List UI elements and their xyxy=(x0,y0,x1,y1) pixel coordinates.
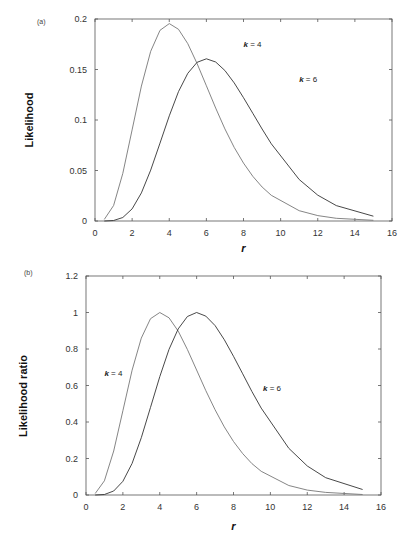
x-tick-label: 6 xyxy=(204,228,209,238)
y-tick-label: 0.05 xyxy=(69,166,87,176)
y-tick-label: 0.2 xyxy=(74,14,87,24)
x-tick-label: 0 xyxy=(83,502,88,512)
y-tick-label: 1.2 xyxy=(65,271,78,281)
panel-label: (b) xyxy=(24,269,33,277)
series-line-k4 xyxy=(104,24,373,221)
panel-b-likelihood-ratio: 024681012141600.20.40.60.811.2rLikelihoo… xyxy=(17,269,386,532)
y-axis-title: Likelihood xyxy=(23,93,35,148)
y-tick-label: 0.4 xyxy=(65,417,78,427)
y-tick-label: 0 xyxy=(82,216,87,226)
plot-frame xyxy=(86,276,381,495)
x-tick-label: 16 xyxy=(376,502,386,512)
x-tick-label: 14 xyxy=(339,502,349,512)
y-tick-label: 0 xyxy=(73,490,78,500)
x-tick-label: 0 xyxy=(92,228,97,238)
figure: 024681012141600.050.10.150.2rLikelihood(… xyxy=(0,0,410,546)
x-tick-label: 4 xyxy=(167,228,172,238)
x-tick-label: 16 xyxy=(387,228,397,238)
panel-label: (a) xyxy=(37,18,46,26)
x-tick-label: 14 xyxy=(350,228,360,238)
y-tick-label: 0.2 xyxy=(65,454,78,464)
x-tick-label: 4 xyxy=(157,502,162,512)
x-axis-title: r xyxy=(231,520,236,532)
y-tick-label: 0.6 xyxy=(65,381,78,391)
x-tick-label: 12 xyxy=(302,502,312,512)
x-tick-label: 8 xyxy=(241,228,246,238)
curve-annotation: k = 4 xyxy=(104,369,123,378)
y-tick-label: 0.8 xyxy=(65,344,78,354)
x-tick-label: 8 xyxy=(231,502,236,512)
plot-frame xyxy=(95,19,392,221)
x-tick-label: 2 xyxy=(120,502,125,512)
series-line-k6 xyxy=(104,59,373,221)
series-line-k6 xyxy=(95,313,362,496)
y-tick-label: 1 xyxy=(73,308,78,318)
x-tick-label: 2 xyxy=(130,228,135,238)
y-axis-title: Likelihood ratio xyxy=(17,355,29,437)
panel-a-likelihood: 024681012141600.050.10.150.2rLikelihood(… xyxy=(23,14,397,254)
curve-annotation: k = 6 xyxy=(299,75,318,84)
x-tick-label: 6 xyxy=(194,502,199,512)
x-axis-title: r xyxy=(241,242,246,254)
series-line-k4 xyxy=(95,313,362,495)
y-tick-label: 0.15 xyxy=(69,65,87,75)
x-tick-label: 10 xyxy=(265,502,275,512)
y-tick-label: 0.1 xyxy=(74,115,87,125)
curve-annotation: k = 4 xyxy=(244,40,263,49)
x-tick-label: 10 xyxy=(276,228,286,238)
curve-annotation: k = 6 xyxy=(263,384,282,393)
x-tick-label: 12 xyxy=(313,228,323,238)
